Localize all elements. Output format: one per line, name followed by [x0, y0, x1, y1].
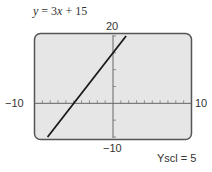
y-min-label: −10: [103, 142, 122, 154]
x-max-label: 10: [195, 97, 207, 109]
y-max-label: 20: [106, 20, 118, 32]
x-min-label: −10: [5, 97, 24, 109]
yscl-annotation: Yscl = 5: [157, 152, 196, 164]
